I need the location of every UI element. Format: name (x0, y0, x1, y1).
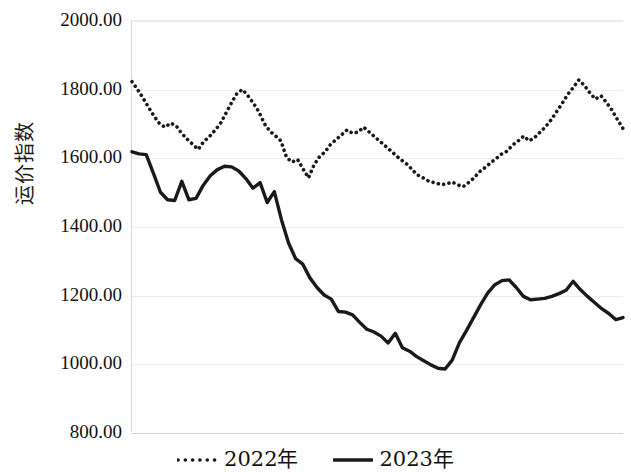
plot-area (131, 20, 623, 432)
y-axis-tick-label: 1400.00 (14, 216, 122, 235)
y-axis-tick-label: 800.00 (14, 422, 122, 441)
dotted-line-swatch (177, 451, 217, 469)
series-2023-line (132, 152, 623, 369)
legend: 2022年2023年 (0, 444, 631, 475)
x-axis-line (132, 433, 623, 434)
y-axis-tick-label: 2000.00 (14, 10, 122, 29)
series-container (132, 21, 623, 432)
legend-label: 2023年 (380, 449, 454, 470)
legend-entry-2023年[interactable]: 2023年 (333, 449, 454, 470)
y-axis-tick-label: 1200.00 (14, 285, 122, 304)
series-line-2023年 (132, 152, 623, 369)
y-axis-tick-label: 1600.00 (14, 147, 122, 166)
legend-entry-2022年[interactable]: 2022年 (177, 449, 298, 470)
solid-line-swatch (333, 451, 373, 469)
series-2022-line (132, 80, 623, 187)
series-line-2022年 (132, 80, 623, 187)
y-axis-tick-labels: 2000.001800.001600.001400.001200.001000.… (10, 0, 122, 475)
y-axis-tick-label: 1800.00 (14, 79, 122, 98)
legend-label: 2022年 (224, 449, 298, 470)
y-axis-tick-label: 1000.00 (14, 353, 122, 372)
freight-rate-index-line-chart: 运价指数 2000.001800.001600.001400.001200.00… (0, 0, 631, 475)
